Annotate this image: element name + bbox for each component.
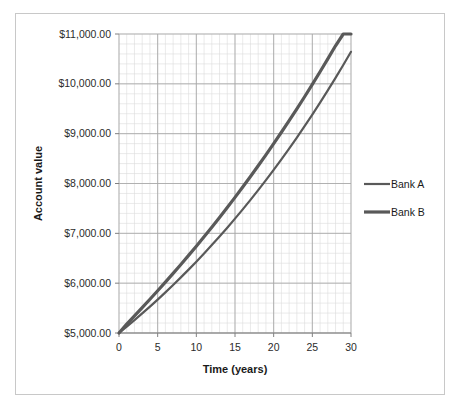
x-axis-tick-labels: 051015202530 [116, 341, 357, 353]
chart-frame: $5,000.00$6,000.00$7,000.00$8,000.00$9,0… [15, 13, 445, 395]
x-tick-label: 10 [190, 341, 202, 353]
x-tick-label: 25 [306, 341, 318, 353]
x-tick-label: 30 [345, 341, 357, 353]
y-axis-tick-labels: $5,000.00$6,000.00$7,000.00$8,000.00$9,0… [58, 28, 111, 339]
x-tick-label: 15 [229, 341, 241, 353]
account-value-line-chart: $5,000.00$6,000.00$7,000.00$8,000.00$9,0… [16, 14, 444, 394]
legend-label-bank-b: Bank B [391, 206, 425, 218]
y-tick-label: $7,000.00 [64, 227, 111, 239]
y-tick-label: $5,000.00 [64, 327, 111, 339]
chart-legend: Bank ABank B [364, 178, 425, 218]
y-tick-label: $8,000.00 [64, 177, 111, 189]
y-tick-label: $11,000.00 [59, 28, 111, 40]
y-tick-label: $9,000.00 [64, 127, 111, 139]
y-tick-label: $6,000.00 [64, 277, 111, 289]
x-tick-label: 20 [268, 341, 280, 353]
x-tick-label: 0 [116, 341, 122, 353]
y-tick-label: $10,000.00 [58, 77, 111, 89]
x-axis-title: Time (years) [203, 363, 268, 375]
y-axis-title: Account value [32, 146, 44, 221]
x-tick-label: 5 [155, 341, 161, 353]
legend-label-bank-a: Bank A [391, 178, 424, 190]
